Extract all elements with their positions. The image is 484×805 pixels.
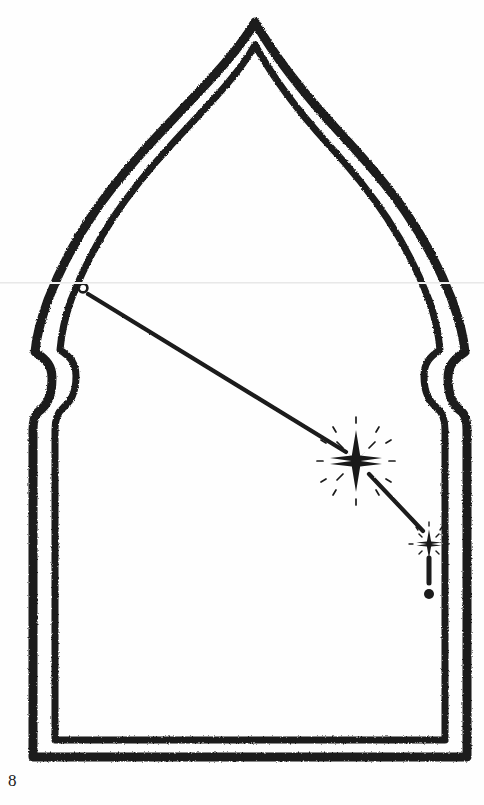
star-body-small — [417, 530, 442, 559]
star-body-large — [330, 430, 382, 492]
ray-group — [79, 284, 434, 599]
ray-origin-dot — [79, 284, 88, 293]
arch-ray-figure — [0, 0, 484, 805]
ray-segment-upper — [88, 294, 346, 452]
arch-outline-group — [33, 22, 467, 757]
page-number: 8 — [8, 772, 17, 789]
arch-outer-path — [33, 22, 467, 757]
scanned-page: 8 — [0, 0, 484, 805]
ray-segment-lower — [369, 474, 423, 531]
ray-terminal-dot — [424, 589, 434, 599]
